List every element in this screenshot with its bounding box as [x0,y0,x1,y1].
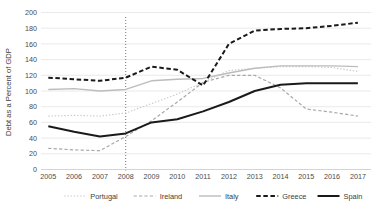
line-chart: 020406080100120140160180200 200520062007… [0,0,378,208]
legend-label-portugal: Portugal [90,192,118,201]
x-tick-label: 2006 [66,172,82,181]
x-tick-label: 2015 [298,172,314,181]
y-tick-label: 180 [25,24,37,33]
chart-background [0,0,378,208]
y-tick-label: 200 [25,8,37,17]
x-tick-label: 2005 [40,172,56,181]
y-tick-label: 120 [25,71,37,80]
y-tick-label: 80 [29,102,37,111]
y-tick-label: 20 [29,149,37,158]
x-tick-label: 2014 [273,172,289,181]
y-tick-label: 140 [25,55,37,64]
x-tick-label: 2009 [144,172,160,181]
x-tick-label: 2007 [92,172,108,181]
y-tick-label: 160 [25,40,37,49]
x-tick-label: 2013 [247,172,263,181]
y-tick-label: 60 [29,118,37,127]
y-axis-title-text: Debt as a Percent of GDP [4,48,13,136]
x-tick-label: 2012 [221,172,237,181]
x-tick-label: 2011 [195,172,210,181]
legend-label-greece: Greece [282,192,306,201]
x-tick-label: 2008 [118,172,134,181]
y-tick-label: 0 [33,165,37,174]
y-tick-label: 100 [25,87,37,96]
legend-label-spain: Spain [344,192,363,201]
y-tick-label: 40 [29,134,37,143]
legend-label-italy: Italy [225,192,239,201]
x-tick-label: 2016 [324,172,340,181]
y-axis-title: Debt as a Percent of GDP [4,48,13,136]
chart-canvas: 020406080100120140160180200 200520062007… [0,0,378,208]
x-tick-label: 2017 [350,172,366,181]
x-tick-label: 2010 [169,172,185,181]
legend-label-ireland: Ireland [160,192,183,201]
